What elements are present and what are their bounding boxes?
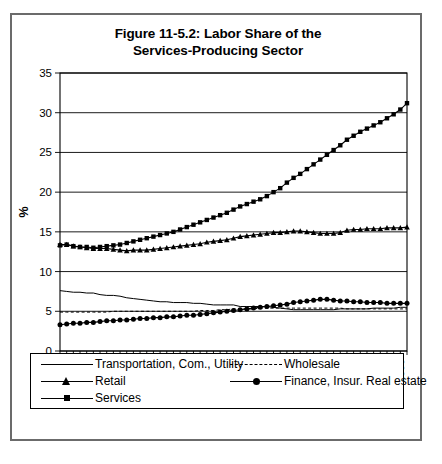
legend-item-retail: Retail: [39, 373, 126, 390]
y-axis-ticks: [55, 73, 60, 351]
y-axis-tick-labels: 05101520253035: [39, 67, 52, 357]
triangle-marker-icon: [62, 377, 70, 385]
svg-text:5: 5: [46, 305, 52, 317]
legend-label-wholesale: Wholesale: [284, 356, 340, 373]
legend-label-retail: Retail: [95, 373, 126, 390]
circle-marker-icon: [253, 378, 260, 385]
figure-frame: Figure 11-5.2: Labor Share of the Servic…: [10, 13, 422, 441]
legend-key-finance: [228, 373, 284, 390]
svg-text:30: 30: [39, 107, 52, 119]
svg-text:15: 15: [39, 226, 52, 238]
y-axis-title: %: [17, 206, 31, 217]
legend-key-services: [39, 390, 95, 407]
legend-item-finance: Finance, Insur. Real estate: [228, 373, 427, 390]
svg-text:20: 20: [39, 186, 52, 198]
legend-item-services: Services: [39, 390, 141, 407]
data-series-layer: [57, 101, 410, 327]
legend-label-services: Services: [95, 390, 141, 407]
legend-key-transportation: [39, 356, 95, 373]
svg-text:25: 25: [39, 146, 52, 158]
legend-label-transportation: Transportation, Com., Utility: [95, 356, 243, 373]
chart-legend: Transportation, Com., Utility Wholesale …: [30, 353, 404, 409]
legend-label-finance: Finance, Insur. Real estate: [284, 373, 427, 390]
svg-text:35: 35: [39, 67, 52, 79]
square-marker-icon: [64, 395, 70, 401]
legend-item-wholesale: Wholesale: [228, 356, 340, 373]
legend-key-retail: [39, 373, 95, 390]
legend-key-wholesale: [228, 356, 284, 373]
svg-text:10: 10: [39, 266, 52, 278]
legend-item-transportation: Transportation, Com., Utility: [39, 356, 243, 373]
